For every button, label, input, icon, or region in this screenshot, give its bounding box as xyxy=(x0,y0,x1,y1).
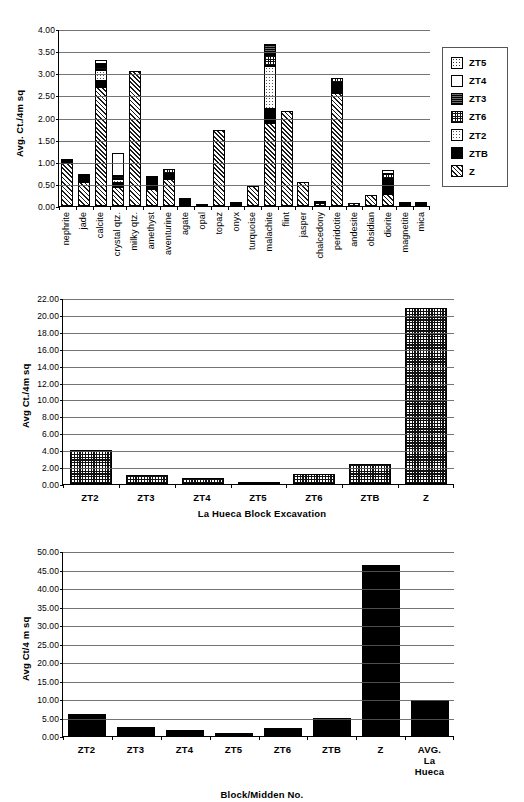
gridline xyxy=(63,384,454,385)
chart1-y-axis-label: Avg. Ct./4m sq xyxy=(14,89,25,156)
bar[interactable] xyxy=(349,464,391,484)
bar[interactable] xyxy=(215,733,253,736)
bar[interactable] xyxy=(399,202,411,206)
x-category-label: diorite xyxy=(383,212,393,237)
y-tick-mark xyxy=(60,737,63,738)
bar-segment-z xyxy=(196,204,208,206)
legend-item-zt3[interactable]: ZT3 xyxy=(451,91,499,106)
y-tick-label: 5.00 xyxy=(42,714,59,724)
y-tick-mark xyxy=(60,350,63,351)
bar-segment-z xyxy=(415,204,427,206)
bar-segment-z xyxy=(112,187,124,206)
gridline xyxy=(63,468,454,469)
y-tick-mark xyxy=(60,451,63,452)
bar-segment-ztb xyxy=(179,198,191,206)
y-tick-mark xyxy=(60,663,63,664)
bar-segment-z xyxy=(247,186,259,206)
x-category-label: Z xyxy=(356,744,405,778)
bar[interactable] xyxy=(179,198,191,206)
bar-slot[interactable] xyxy=(398,299,454,484)
x-category-label: jasper xyxy=(298,212,308,237)
bar[interactable] xyxy=(314,201,326,206)
bar[interactable] xyxy=(182,478,224,484)
legend-item-zt5[interactable]: ZT5 xyxy=(451,55,499,70)
bar[interactable] xyxy=(362,565,400,736)
bar[interactable] xyxy=(293,474,335,484)
bar[interactable] xyxy=(264,728,302,737)
y-tick-mark xyxy=(60,682,63,683)
bar[interactable] xyxy=(247,186,259,206)
bar-slot[interactable] xyxy=(342,299,398,484)
legend-item-zt4[interactable]: ZT4 xyxy=(451,73,499,88)
x-category-label: onyx xyxy=(231,212,241,231)
gridline xyxy=(59,96,430,97)
legend-swatch-zt2 xyxy=(451,129,463,141)
x-tick-mark xyxy=(161,736,162,740)
bar[interactable] xyxy=(126,475,168,484)
legend-item-zt6[interactable]: ZT6 xyxy=(451,109,499,124)
legend-swatch-zt6 xyxy=(451,111,463,123)
chart-la-hueca-block-excavation: Avg Ct./4m sq 0.002.004.006.008.0010.001… xyxy=(0,285,524,540)
bar[interactable] xyxy=(415,202,427,206)
legend-item-z[interactable]: Z xyxy=(451,164,499,179)
x-tick-mark xyxy=(175,484,176,488)
x-category: malachite xyxy=(261,210,278,280)
y-tick-mark xyxy=(56,30,59,31)
bar[interactable] xyxy=(163,169,175,206)
bar-slot[interactable] xyxy=(286,299,342,484)
y-tick-mark xyxy=(60,571,63,572)
chart3-y-axis-label: Avg Ct/4 m sq xyxy=(20,616,31,680)
bar-slot[interactable] xyxy=(231,299,287,484)
bar[interactable] xyxy=(382,170,394,206)
y-tick-label: 14.00 xyxy=(37,362,59,372)
bar-segment-z xyxy=(314,203,326,206)
bar[interactable] xyxy=(78,174,90,206)
y-tick-mark xyxy=(60,608,63,609)
x-category-label: ZT5 xyxy=(209,744,258,778)
bar-segment-z xyxy=(95,87,107,206)
bar[interactable] xyxy=(68,714,106,736)
legend-item-zt2[interactable]: ZT2 xyxy=(451,128,499,143)
legend-swatch-z xyxy=(451,165,463,177)
legend-label: ZTB xyxy=(469,148,488,159)
x-category: crystal qtz. xyxy=(109,210,126,280)
bar[interactable] xyxy=(230,202,242,206)
gridline xyxy=(63,417,454,418)
bar[interactable] xyxy=(117,727,155,736)
bar[interactable] xyxy=(70,450,112,484)
bar[interactable] xyxy=(313,718,351,737)
bar[interactable] xyxy=(405,308,447,484)
bar-body xyxy=(293,474,335,484)
x-category-label: magnetite xyxy=(400,212,410,252)
bar[interactable] xyxy=(61,159,73,206)
x-category: obsidian xyxy=(362,210,379,280)
y-tick-label: 10.00 xyxy=(37,695,59,705)
bar[interactable] xyxy=(196,204,208,206)
x-category-label: ZT3 xyxy=(118,492,174,506)
y-tick-label: 18.00 xyxy=(37,328,59,338)
bar-slot[interactable] xyxy=(63,299,119,484)
bar[interactable] xyxy=(112,153,124,206)
bar[interactable] xyxy=(365,195,377,206)
y-tick-mark xyxy=(60,434,63,435)
gridline xyxy=(63,451,454,452)
y-tick-label: 20.00 xyxy=(37,658,59,668)
bar-slot[interactable] xyxy=(119,299,175,484)
x-category: aventurine xyxy=(159,210,176,280)
bar[interactable] xyxy=(238,482,280,484)
y-tick-label: 2.00 xyxy=(42,463,59,473)
x-category-label: ZT6 xyxy=(258,744,307,778)
x-category-label: obsidian xyxy=(366,212,376,246)
bar[interactable] xyxy=(281,111,293,206)
gridline xyxy=(59,185,430,186)
bar[interactable] xyxy=(348,203,360,206)
bar[interactable] xyxy=(264,44,276,206)
bar[interactable] xyxy=(166,730,204,736)
bar[interactable] xyxy=(146,176,158,206)
y-tick-mark xyxy=(56,185,59,186)
legend-item-ztb[interactable]: ZTB xyxy=(451,146,499,161)
bar-segment-z xyxy=(146,189,158,206)
bar-slot[interactable] xyxy=(175,299,231,484)
gridline xyxy=(63,700,454,701)
bar-body xyxy=(166,730,204,736)
